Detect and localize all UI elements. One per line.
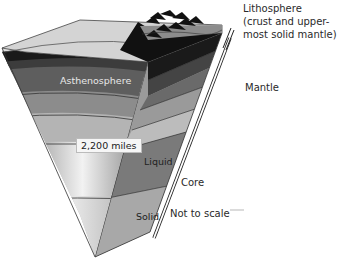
core-label: Core [181,177,204,189]
asthenosphere-label: Asthenosphere [60,76,131,87]
lithosphere-desc-line2: most solid mantle) [243,29,337,41]
depth-label: 2,200 miles [76,138,142,153]
solid-core-label: Solid [136,212,159,223]
lithosphere-desc-line1: (crust and upper- [243,16,329,28]
mantle-label: Mantle [245,82,279,94]
liquid-core-label: Liquid [144,157,173,168]
not-to-scale-label: Not to scale [170,208,230,220]
lithosphere-label: Lithosphere [243,3,302,15]
